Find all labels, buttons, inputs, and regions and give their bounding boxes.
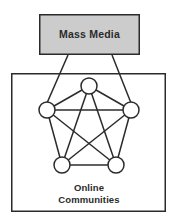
connector-media-to-right-node (112, 55, 131, 103)
connector-media-to-left-node (47, 55, 68, 103)
edge-right-bottomleft (62, 110, 131, 165)
online-communities-label-line2: Communities (58, 194, 119, 205)
community-node-top (81, 78, 97, 94)
online-communities-label-line1: Online (74, 182, 104, 193)
diagram-root: Mass Media Online Comm (0, 0, 176, 224)
community-node-bottom-left (54, 157, 70, 173)
network-nodes (39, 78, 139, 173)
diagram-canvas: Mass Media Online Comm (0, 0, 176, 224)
edge-left-bottomright (47, 110, 116, 165)
community-node-right (123, 102, 139, 118)
network-edges (47, 86, 131, 165)
community-node-left (39, 102, 55, 118)
mass-media-label: Mass Media (59, 28, 120, 40)
community-node-bottom-right (108, 157, 124, 173)
